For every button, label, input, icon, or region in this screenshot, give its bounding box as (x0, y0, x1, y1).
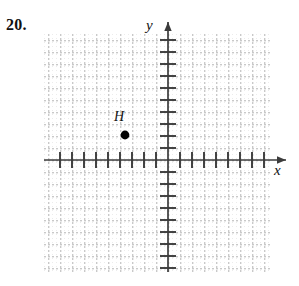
coordinate-plane-figure: 20. (0, 0, 299, 286)
y-axis-label: y (146, 18, 153, 33)
point-h-label: H (114, 110, 124, 124)
plotted-point-h (121, 131, 130, 140)
y-axis-arrowhead (164, 22, 171, 31)
x-axis-label: x (274, 163, 281, 178)
coordinate-grid-svg (0, 0, 299, 286)
grid-layer (44, 34, 272, 272)
